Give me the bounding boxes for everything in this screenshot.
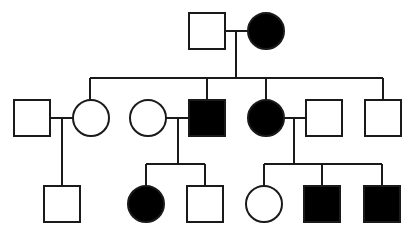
female-unaffected-II-2 [73, 100, 109, 136]
pedigree-chart [0, 0, 412, 237]
female-affected-II-5 [248, 100, 284, 136]
female-affected-I-2 [248, 13, 284, 49]
male-affected-III-5 [304, 186, 340, 222]
male-unaffected-III-3 [187, 186, 223, 222]
individuals [14, 13, 401, 222]
male-unaffected-II-7 [365, 100, 401, 136]
female-unaffected-II-3 [130, 100, 166, 136]
male-unaffected-II-6 [306, 100, 342, 136]
male-unaffected-II-1 [14, 100, 50, 136]
male-unaffected-III-1 [44, 186, 80, 222]
female-affected-III-2 [128, 186, 164, 222]
male-affected-III-6 [364, 186, 400, 222]
female-unaffected-III-4 [246, 186, 282, 222]
male-affected-II-4 [189, 100, 225, 136]
male-unaffected-I-1 [189, 13, 225, 49]
